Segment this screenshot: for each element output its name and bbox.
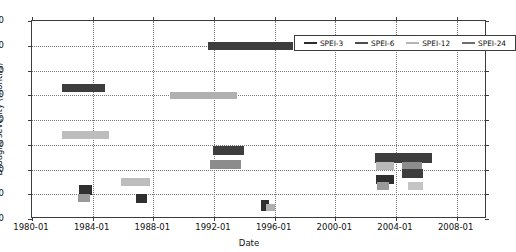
y-tick-label: 70 <box>0 40 4 50</box>
x-tick-mark <box>457 217 458 221</box>
gridline-vertical <box>93 21 94 217</box>
data-segment <box>210 160 240 168</box>
legend-swatch-icon <box>355 42 368 45</box>
y-tick-label: 0 <box>0 213 4 223</box>
y-tick-mark <box>485 170 489 171</box>
data-segment <box>377 182 389 189</box>
y-tick-label: 80 <box>0 15 4 25</box>
data-segment <box>62 84 104 91</box>
x-tick-mark <box>275 217 276 221</box>
data-segment <box>213 146 244 155</box>
x-tick-mark <box>335 217 336 221</box>
data-segment <box>266 204 274 211</box>
legend-item: SPEI-6 <box>355 39 394 48</box>
plot-area: SPEI-3SPEI-6SPEI-12SPEI-24 <box>31 20 486 218</box>
x-axis-label: Date <box>239 238 259 248</box>
gridline-vertical <box>153 21 154 217</box>
data-segment <box>78 194 90 202</box>
y-tick-mark <box>485 21 489 22</box>
data-segment <box>62 131 109 138</box>
x-tick-mark <box>275 17 276 21</box>
y-tick-label: 60 <box>0 65 4 75</box>
x-tick-label: 1992-01 <box>195 222 231 232</box>
y-tick-label: 20 <box>0 164 4 174</box>
data-segment <box>170 92 237 99</box>
x-tick-mark <box>396 217 397 221</box>
y-tick-mark <box>28 46 32 47</box>
x-tick-label: 2004-01 <box>377 222 413 232</box>
gridline-vertical <box>275 21 276 217</box>
legend-item: SPEI-3 <box>304 39 343 48</box>
data-segment <box>402 169 423 178</box>
legend-item: SPEI-24 <box>462 39 506 48</box>
data-segment <box>208 42 293 50</box>
legend: SPEI-3SPEI-6SPEI-12SPEI-24 <box>294 35 516 51</box>
legend-swatch-icon <box>304 42 317 45</box>
x-tick-label: 1980-01 <box>13 222 49 232</box>
x-tick-label: 2008-01 <box>438 222 474 232</box>
x-tick-mark <box>396 17 397 21</box>
x-tick-mark <box>457 17 458 21</box>
data-segment <box>79 185 92 195</box>
y-tick-mark <box>485 71 489 72</box>
x-tick-mark <box>93 17 94 21</box>
gridline-horizontal <box>32 145 485 146</box>
gridline-horizontal <box>32 71 485 72</box>
data-segment <box>408 182 423 189</box>
x-tick-label: 1988-01 <box>135 222 171 232</box>
y-tick-label: 50 <box>0 89 4 99</box>
y-tick-label: 30 <box>0 139 4 149</box>
x-tick-mark <box>153 17 154 21</box>
y-tick-mark <box>28 170 32 171</box>
x-tick-mark <box>153 217 154 221</box>
gridline-horizontal <box>32 194 485 195</box>
y-tick-mark <box>28 194 32 195</box>
legend-label: SPEI-24 <box>478 39 506 48</box>
y-tick-label: 40 <box>0 114 4 124</box>
x-tick-label: 1996-01 <box>256 222 292 232</box>
x-tick-mark <box>335 17 336 21</box>
data-segment <box>136 194 147 203</box>
y-tick-mark <box>28 21 32 22</box>
y-tick-label: 10 <box>0 188 4 198</box>
gridline-vertical <box>214 21 215 217</box>
y-tick-mark <box>28 145 32 146</box>
y-tick-mark <box>485 95 489 96</box>
y-tick-mark <box>28 71 32 72</box>
x-tick-mark <box>32 17 33 21</box>
y-tick-mark <box>28 95 32 96</box>
y-tick-mark <box>28 120 32 121</box>
x-tick-label: 2000-01 <box>317 222 353 232</box>
y-tick-mark <box>485 145 489 146</box>
data-segment <box>376 162 394 170</box>
y-tick-mark <box>485 120 489 121</box>
data-segment <box>121 178 151 185</box>
legend-swatch-icon <box>406 42 419 45</box>
gridline-horizontal <box>32 95 485 96</box>
legend-swatch-icon <box>462 42 475 45</box>
x-tick-mark <box>93 217 94 221</box>
x-tick-label: 1984-01 <box>74 222 110 232</box>
x-tick-mark <box>214 17 215 21</box>
y-tick-mark <box>485 194 489 195</box>
gridline-horizontal <box>32 120 485 121</box>
legend-label: SPEI-3 <box>320 39 343 48</box>
x-tick-mark <box>32 217 33 221</box>
legend-label: SPEI-12 <box>422 39 450 48</box>
x-tick-mark <box>214 217 215 221</box>
legend-label: SPEI-6 <box>371 39 394 48</box>
legend-item: SPEI-12 <box>406 39 450 48</box>
y-tick-mark <box>485 219 489 220</box>
